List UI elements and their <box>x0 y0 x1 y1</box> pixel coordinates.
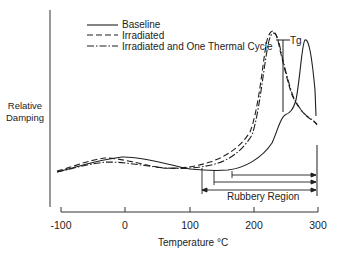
series-irradiated-thermal-cycle <box>57 33 317 172</box>
x-tick-label: 300 <box>309 219 327 231</box>
legend-label-irradiated: Irradiated <box>122 30 164 41</box>
y-axis-label: Relative Damping <box>1 100 49 124</box>
x-tick-label: 0 <box>122 219 128 231</box>
x-tick-label: -100 <box>50 219 71 231</box>
x-axis-label: Temperature °C <box>158 237 228 248</box>
legend-swatches <box>87 25 118 46</box>
legend-label-baseline: Baseline <box>122 19 160 30</box>
rubbery-region-label: Rubbery Region <box>227 191 299 202</box>
x-tick-label: 200 <box>245 219 263 231</box>
x-tick-label: 100 <box>181 219 199 231</box>
y-axis-label-line2: Damping <box>1 112 49 124</box>
series-baseline <box>57 40 316 172</box>
tg-marker <box>276 40 290 112</box>
y-axis-label-line1: Relative <box>1 100 49 112</box>
tg-label: Tg <box>290 35 302 46</box>
x-axis <box>61 207 318 212</box>
legend-label-irradiated-thermal: Irradiated and One Thermal Cycle <box>122 41 272 52</box>
series-irradiated <box>57 31 317 171</box>
